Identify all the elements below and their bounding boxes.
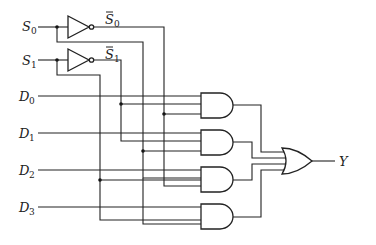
svg-text:0: 0 [29,96,35,106]
svg-text:1: 1 [114,54,120,64]
svg-text:S: S [22,19,31,34]
wire-s1 [38,58,201,220]
mux-diagram: S 0 S 1 S 0 S 1 D 0 D 1 D 2 D 3 Y [0,0,376,245]
wire-and0-out [233,105,284,152]
svg-text:S: S [22,53,31,68]
wire-s1-to-and2 [98,178,201,182]
wire-s1-bar [94,60,201,141]
wire-s0 [38,25,201,178]
or-gate [282,148,312,174]
and-gate-2 [201,167,233,192]
label-d3: D 3 [18,200,35,217]
and-gate-3 [201,204,233,229]
label-s1-bar: S 1 [105,47,120,64]
wire-s0-to-and1 [141,149,201,224]
label-d0: D 0 [18,89,35,106]
label-s0: S 0 [22,19,37,36]
label-y: Y [339,154,349,169]
wire-and3-out [233,170,284,217]
label-d2: D 2 [18,163,35,180]
svg-text:0: 0 [31,26,37,36]
svg-text:Y: Y [339,154,349,169]
and-gate-1 [201,130,233,155]
and-gate-0 [201,93,233,118]
svg-text:S: S [105,12,114,27]
wire-and1-out [233,142,287,158]
wire-and2-out [233,164,287,180]
label-d1: D 1 [18,126,35,143]
svg-text:3: 3 [29,207,35,217]
svg-text:1: 1 [29,133,35,143]
svg-text:1: 1 [31,60,37,70]
label-s1: S 1 [22,53,37,70]
svg-text:2: 2 [29,170,35,180]
not-gate-s1 [68,49,94,71]
not-gate-s0 [68,16,94,38]
